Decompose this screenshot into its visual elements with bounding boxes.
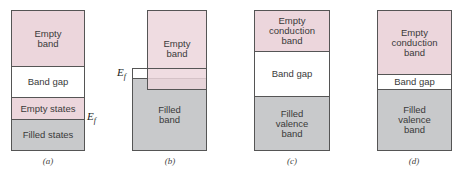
panel-a-empty-band: Empty band [12, 11, 84, 66]
panel-b-overlap-outline [132, 68, 207, 90]
panel-b-caption: (b) [155, 156, 185, 166]
panel-d-band-diagram: Empty conduction band Band gap Filled va… [377, 10, 452, 151]
panel-c-valence-band-label: Filled valence band [272, 109, 312, 139]
panel-d-valence-band-label: Filled valence band [395, 105, 435, 135]
panel-c-band-gap-label: Band gap [272, 69, 313, 79]
panel-d-conduction-band: Empty conduction band [378, 11, 451, 74]
panel-a-empty-states-label: Empty states [21, 104, 76, 114]
panel-a-caption: (a) [33, 156, 63, 166]
panel-a-fermi-level-label: Ef [87, 110, 96, 125]
panel-c-caption: (c) [277, 156, 307, 166]
panel-a-empty-band-label: Empty band [28, 29, 68, 49]
panel-a-filled-states-label: Filled states [23, 130, 74, 140]
panel-d-band-gap-label: Band gap [394, 77, 435, 87]
panel-d-conduction-band-label: Empty conduction band [387, 28, 443, 58]
panel-c-conduction-band-label: Empty conduction band [264, 16, 320, 46]
panel-c-valence-band: Filled valence band [255, 96, 329, 150]
panel-b-filled-band-text: Filled band [133, 105, 206, 125]
panel-c-band-diagram: Empty conduction band Band gap Filled va… [254, 10, 330, 151]
panel-a-filled-states: Filled states [12, 119, 84, 150]
panel-d-valence-band: Filled valence band [378, 89, 451, 150]
panel-a-band-gap: Band gap [12, 66, 84, 97]
panel-c-band-gap: Band gap [255, 51, 329, 96]
panel-d-band-gap: Band gap [378, 74, 451, 89]
panel-a-band-gap-label: Band gap [28, 77, 69, 87]
panel-b-fermi-level-label: Ef [117, 66, 126, 81]
panel-d-caption: (d) [399, 156, 429, 166]
panel-a-band-diagram: Empty band Band gap Empty states Filled … [11, 10, 85, 151]
panel-b-empty-band-text: Empty band [148, 39, 206, 59]
panel-a-empty-states: Empty states [12, 97, 84, 119]
panel-c-conduction-band: Empty conduction band [255, 11, 329, 51]
